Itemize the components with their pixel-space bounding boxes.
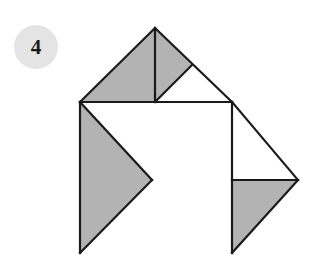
tangram-puzzle-image: 4 (0, 0, 319, 264)
tangram-figure (0, 0, 319, 264)
